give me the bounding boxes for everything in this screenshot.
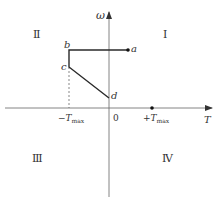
origin-label: 0 xyxy=(113,113,119,123)
quadrant-2-label: Ⅱ xyxy=(33,28,40,41)
quadrant-4-label: Ⅳ xyxy=(162,152,174,165)
neg-tmax-main: −T xyxy=(58,113,73,123)
y-axis-label: ω xyxy=(96,9,105,22)
pos-tmax-sub: max xyxy=(157,117,170,124)
neg-tmax-label: −Tmax xyxy=(58,113,85,124)
trajectory-a-b-c-d xyxy=(69,50,128,98)
quadrant-3-label: Ⅲ xyxy=(32,152,43,165)
point-b-label: b xyxy=(64,39,70,50)
point-a-marker xyxy=(126,48,130,52)
pos-tmax-main: +T xyxy=(143,113,158,123)
neg-tmax-sub: max xyxy=(72,117,85,124)
x-axis-label: T xyxy=(204,114,212,125)
pos-tmax-label: +Tmax xyxy=(143,113,170,124)
point-a-label: a xyxy=(131,43,137,54)
four-quadrant-diagram: ω T 0 Ⅰ Ⅱ Ⅲ Ⅳ a b c d −Tmax +Tmax xyxy=(0,0,222,210)
point-d-label: d xyxy=(111,90,117,101)
point-c-label: c xyxy=(61,61,67,72)
quadrant-1-label: Ⅰ xyxy=(163,28,167,41)
pos-tmax-marker xyxy=(150,106,154,110)
